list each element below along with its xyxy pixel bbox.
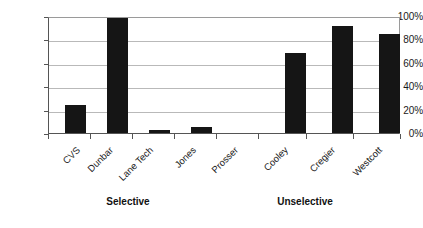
bar-cvs	[65, 105, 86, 133]
bar-cooley	[285, 53, 306, 134]
bar-dunbar	[107, 18, 128, 133]
plot-area	[48, 17, 400, 134]
x-tick-mark-8	[400, 134, 401, 139]
x-tick-mark-4	[216, 134, 217, 139]
group-label-selective: Selective	[78, 196, 178, 207]
x-tick-mark-1	[90, 134, 91, 139]
x-tick-mark-6	[306, 134, 307, 139]
x-tick-mark-5	[258, 134, 259, 139]
x-tick-mark-3	[174, 134, 175, 139]
group-label-unselective: Unselective	[250, 196, 360, 207]
x-category-label-cvs: CVS	[22, 145, 82, 205]
bar-chart: 100% 80% 60% 40% 20% 0% CVS Dunbar Lane …	[0, 0, 423, 228]
bar-lane-tech	[149, 130, 170, 133]
x-tick-mark-2	[132, 134, 133, 139]
bar-jones	[191, 127, 212, 133]
bar-westcott	[379, 34, 400, 133]
x-tick-mark-7	[353, 134, 354, 139]
bar-cregier	[332, 26, 353, 133]
x-tick-mark-0	[48, 134, 49, 139]
